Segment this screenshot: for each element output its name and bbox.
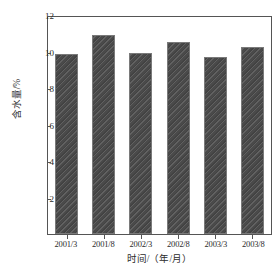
bar bbox=[92, 35, 115, 234]
y-axis-title: 含水量/% bbox=[9, 39, 23, 159]
bar bbox=[204, 57, 227, 234]
bar-chart-figure: 24681012 2001/32001/82002/32002/82003/32… bbox=[0, 0, 280, 270]
x-axis-tick-label: 2003/8 bbox=[235, 238, 273, 250]
x-axis-tick-label: 2002/8 bbox=[160, 238, 198, 250]
x-axis-tick-labels: 2001/32001/82002/32002/82003/32003/8 bbox=[47, 238, 272, 250]
bar bbox=[241, 47, 264, 234]
x-axis-tick-label: 2001/8 bbox=[85, 238, 123, 250]
bar bbox=[55, 54, 78, 234]
bar bbox=[129, 53, 152, 234]
x-axis-tick-label: 2001/3 bbox=[47, 238, 85, 250]
x-axis-tick-label: 2003/3 bbox=[197, 238, 235, 250]
x-axis-title: 时间/（年/月） bbox=[47, 251, 272, 265]
x-axis-tick-label: 2002/3 bbox=[122, 238, 160, 250]
bar bbox=[167, 42, 190, 234]
bars-layer bbox=[48, 17, 271, 234]
